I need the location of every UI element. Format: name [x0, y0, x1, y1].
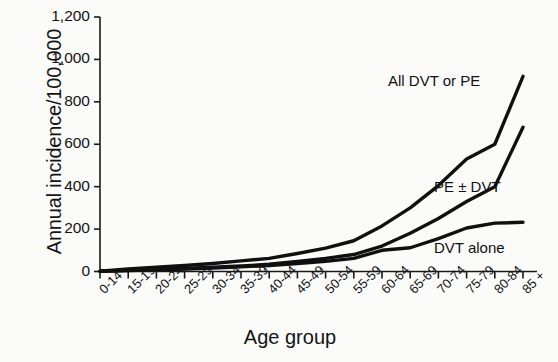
axes-lines	[100, 17, 537, 272]
y-tick-label: 600	[28, 134, 90, 152]
series-label-dvt-alone: DVT alone	[434, 239, 505, 256]
y-tick-label: 0	[28, 262, 90, 280]
y-tick-label: 1,200	[28, 7, 90, 25]
y-tick-label: 400	[28, 177, 90, 195]
chart-figure: Annual incidence/100,000 Age group 02004…	[0, 0, 558, 362]
y-tick-label: 200	[28, 219, 90, 237]
y-tick-label: 800	[28, 92, 90, 110]
series-label-all-dvt-or-pe: All DVT or PE	[388, 72, 480, 89]
series-label-pe-dvt: PE ± DVT	[434, 178, 501, 195]
y-tick-label: 1,000	[28, 49, 90, 67]
